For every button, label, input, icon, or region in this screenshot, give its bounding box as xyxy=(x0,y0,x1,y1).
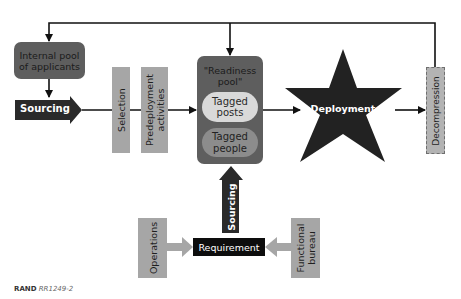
tagged-people-label: Tagged people xyxy=(212,131,248,154)
source-note: RAND RR1249-2 xyxy=(14,285,73,293)
sourcing-left-label: Sourcing xyxy=(20,103,70,114)
functional-bureau-bar: Functional bureau xyxy=(291,218,320,278)
requirement-label: Requirement xyxy=(198,242,259,253)
sourcing-up-box: Sourcing xyxy=(222,182,239,232)
operations-label: Operations xyxy=(147,222,158,274)
sourcing-up-label: Sourcing xyxy=(225,183,236,230)
functional-bureau-label: Functional bureau xyxy=(295,224,317,273)
readiness-pool-title: "Readiness pool" xyxy=(197,65,263,87)
source-bold: RAND xyxy=(14,285,36,293)
tagged-posts-label: Tagged posts xyxy=(212,96,248,119)
tagged-people-pill: Tagged people xyxy=(202,128,258,157)
operations-bar: Operations xyxy=(138,218,167,278)
predeployment-label: Predeployment activities xyxy=(144,74,166,146)
decompression-label: Decompression xyxy=(430,76,441,146)
deployment-label: Deployment xyxy=(303,103,383,114)
tagged-posts-pill: Tagged posts xyxy=(202,92,258,122)
internal-pool-box: Internal pool of applicants xyxy=(14,42,85,79)
readiness-pool-box: "Readiness pool" Tagged posts Tagged peo… xyxy=(197,56,263,164)
internal-pool-label: Internal pool of applicants xyxy=(19,50,80,72)
decompression-bar: Decompression xyxy=(426,67,445,154)
predeployment-bar: Predeployment activities xyxy=(141,67,168,153)
requirement-box: Requirement xyxy=(193,238,265,256)
selection-label: Selection xyxy=(116,88,127,132)
source-id: RR1249-2 xyxy=(39,285,74,293)
selection-bar: Selection xyxy=(112,67,130,153)
